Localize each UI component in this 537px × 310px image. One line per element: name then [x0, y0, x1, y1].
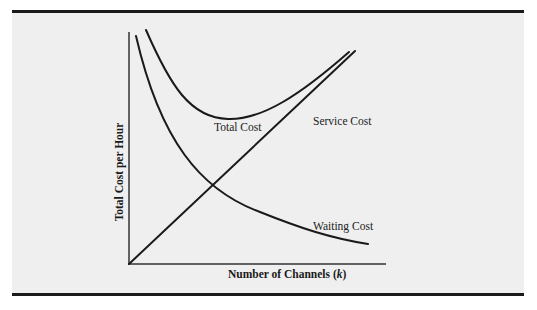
total-cost-label: Total Cost [214, 121, 262, 133]
waiting-cost-curve [136, 36, 368, 244]
service-cost-label: Service Cost [313, 115, 372, 127]
total-cost-curve [146, 30, 349, 119]
waiting-cost-label: Waiting Cost [313, 220, 374, 233]
cost-chart: Total Cost Service Cost Waiting Cost Num… [0, 0, 537, 310]
service-cost-line [129, 51, 355, 264]
y-axis-title: Total Cost per Hour [113, 123, 126, 222]
x-axis-title: Number of Channels (k) [228, 268, 346, 281]
